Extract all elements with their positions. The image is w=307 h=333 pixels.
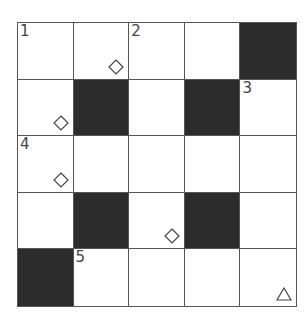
grid-cell[interactable]: [74, 23, 130, 80]
black-square: [240, 23, 296, 80]
grid-cell[interactable]: [129, 193, 185, 250]
crossword-grid: 12345: [17, 22, 297, 307]
clue-number: 3: [242, 81, 252, 96]
clue-number: 1: [20, 24, 30, 39]
grid-cell[interactable]: 1: [18, 23, 74, 80]
grid-cell[interactable]: [240, 193, 296, 250]
grid-cell[interactable]: [129, 249, 185, 306]
grid-cell[interactable]: [18, 80, 74, 137]
diamond-icon: [53, 172, 69, 188]
grid-cell[interactable]: 4: [18, 136, 74, 193]
diamond-icon: [164, 228, 180, 244]
grid-cell[interactable]: [74, 136, 130, 193]
grid-cell[interactable]: 2: [129, 23, 185, 80]
black-square: [74, 80, 130, 137]
clue-number: 2: [131, 24, 141, 39]
grid-cell[interactable]: [185, 249, 241, 306]
triangle-icon: [276, 286, 292, 302]
grid-cell[interactable]: [129, 80, 185, 137]
black-square: [74, 193, 130, 250]
grid-cell[interactable]: [129, 136, 185, 193]
grid-cell[interactable]: [185, 136, 241, 193]
clue-number: 4: [20, 137, 30, 152]
grid-cell[interactable]: [240, 249, 296, 306]
grid-cell[interactable]: [240, 136, 296, 193]
diamond-icon: [53, 115, 69, 131]
black-square: [18, 249, 74, 306]
clue-number: 5: [76, 250, 86, 265]
black-square: [185, 193, 241, 250]
diamond-icon: [108, 59, 124, 75]
grid-cell[interactable]: 3: [240, 80, 296, 137]
grid-cell[interactable]: 5: [74, 249, 130, 306]
grid-cell[interactable]: [185, 23, 241, 80]
grid-cell[interactable]: [18, 193, 74, 250]
black-square: [185, 80, 241, 137]
